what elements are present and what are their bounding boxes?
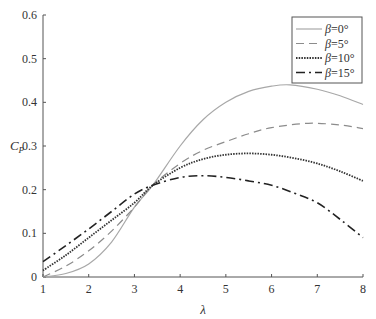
series-line-0 [43, 85, 363, 277]
y-tick-label: 0.2 [22, 183, 37, 197]
legend: β=0°β=5°β=10°β=15° [292, 17, 362, 83]
y-tick-label: 0.6 [22, 8, 37, 22]
x-tick-label: 2 [86, 282, 92, 296]
y-tick-label: 0 [31, 270, 37, 284]
x-tick-label: 7 [314, 282, 320, 296]
x-tick-label: 6 [269, 282, 275, 296]
x-tick-label: 1 [40, 282, 46, 296]
series-lines [43, 85, 363, 277]
cp-lambda-chart: 00.10.20.30.40.50.612345678λCP β=0°β=5°β… [0, 0, 376, 319]
legend-entry: β=0° [324, 22, 349, 36]
x-tick-label: 4 [177, 282, 183, 296]
y-tick-label: 0.1 [22, 226, 37, 240]
x-tick-label: 5 [223, 282, 229, 296]
series-line-1 [43, 123, 363, 277]
legend-entry: β=15° [324, 66, 355, 80]
legend-entry: β=10° [324, 51, 355, 65]
series-line-2 [43, 153, 363, 270]
x-tick-label: 3 [131, 282, 137, 296]
x-tick-label: 8 [360, 282, 366, 296]
legend-entry: β=5° [324, 37, 349, 51]
y-tick-label: 0.3 [22, 139, 37, 153]
y-tick-label: 0.5 [22, 52, 37, 66]
x-axis-label: λ [199, 302, 206, 317]
y-tick-label: 0.4 [22, 95, 37, 109]
